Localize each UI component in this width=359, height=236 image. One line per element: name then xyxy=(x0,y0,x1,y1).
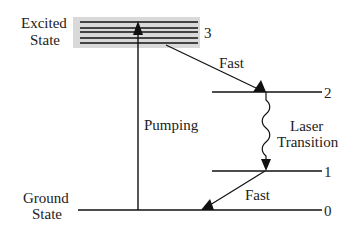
ground-state-label-line1: Ground xyxy=(23,190,69,206)
excited-state-label-line1: Excited xyxy=(21,15,67,31)
pumping-label: Pumping xyxy=(144,117,199,133)
fast-label-upper: Fast xyxy=(219,55,245,71)
ground-state-label-line2: State xyxy=(32,206,62,222)
laser-transition-arrow xyxy=(261,92,271,171)
laser-transition-label-line2: Transition xyxy=(277,134,339,150)
level-2-label: 2 xyxy=(324,85,332,101)
fast-decay-arrow-upper xyxy=(166,45,266,92)
level-1-label: 1 xyxy=(324,164,332,180)
pumping-arrow xyxy=(133,21,143,210)
level-3-label: 3 xyxy=(204,25,212,41)
energy-level-diagram: Excited State 3 2 1 0 Fast Pumping Laser… xyxy=(0,0,359,236)
laser-transition-label-line1: Laser xyxy=(290,118,323,134)
fast-label-lower: Fast xyxy=(245,187,271,203)
level-0-label: 0 xyxy=(324,203,332,219)
excited-state-label-line2: State xyxy=(30,32,60,48)
